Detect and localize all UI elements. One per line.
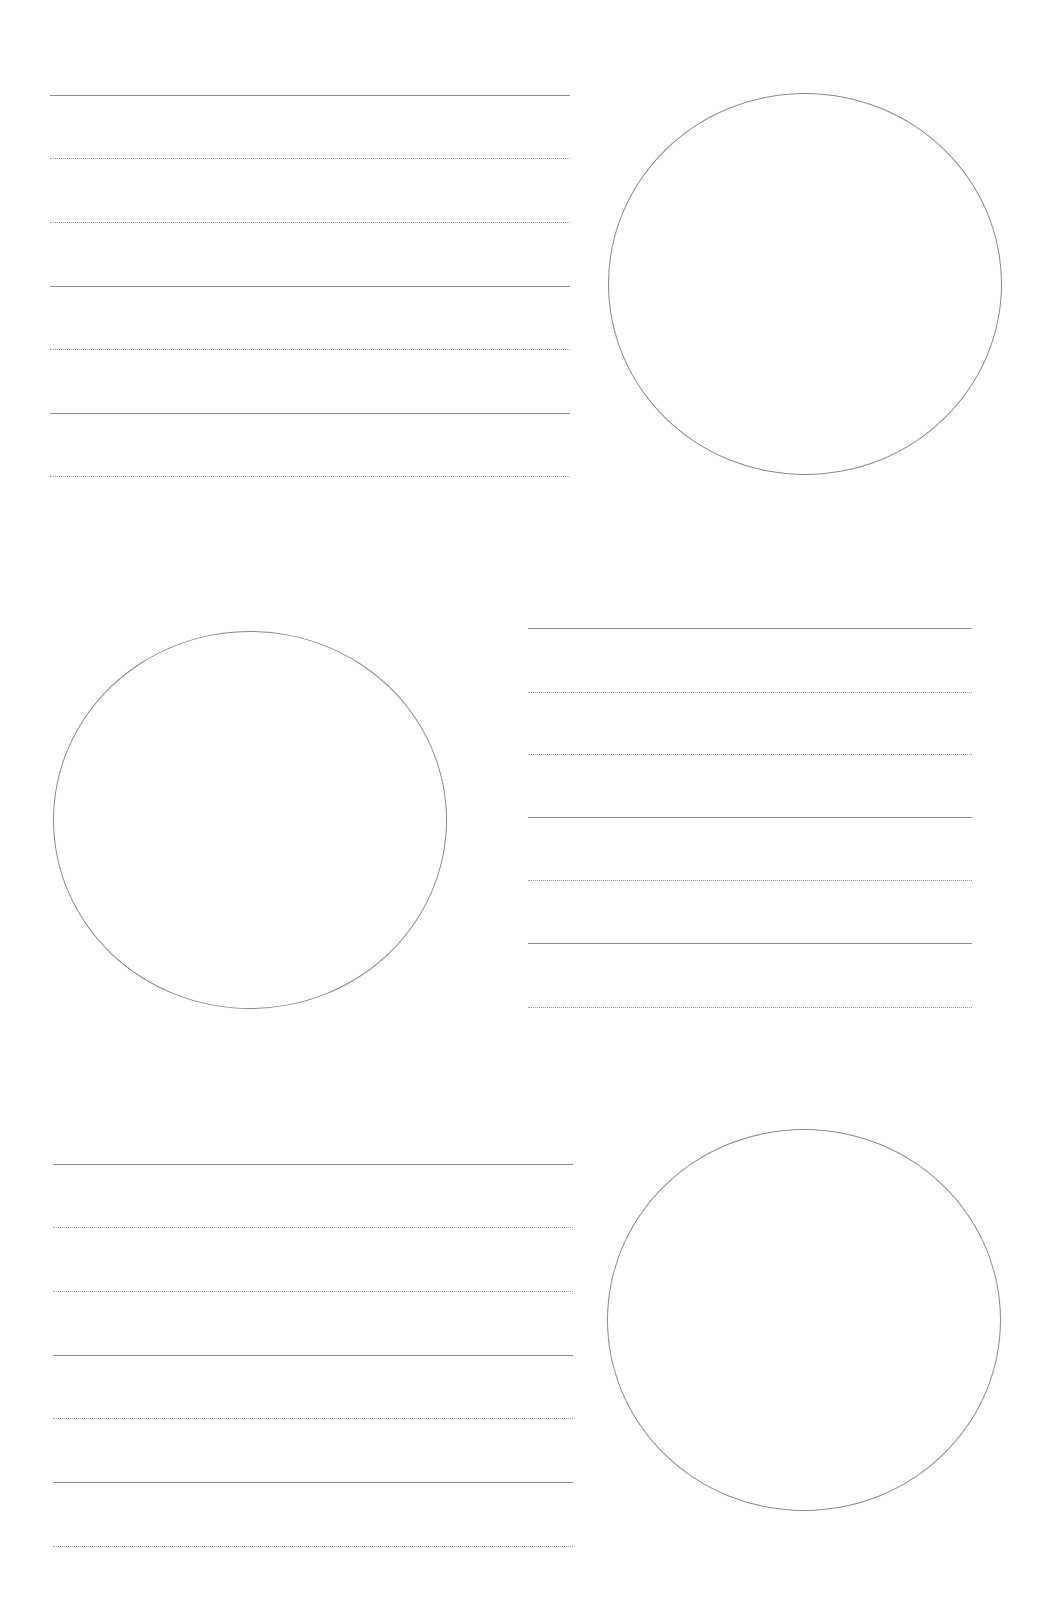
solid-writing-line <box>528 817 972 818</box>
drawing-circle <box>607 1129 1001 1511</box>
dotted-writing-line <box>528 1007 972 1008</box>
solid-writing-line <box>53 1164 573 1165</box>
dotted-writing-line <box>50 349 570 350</box>
solid-writing-line <box>528 943 972 944</box>
solid-writing-line <box>50 95 570 96</box>
dotted-writing-line <box>53 1546 573 1547</box>
dotted-writing-line <box>53 1227 573 1228</box>
solid-writing-line <box>53 1482 573 1483</box>
solid-writing-line <box>50 286 570 287</box>
dotted-writing-line <box>50 158 570 159</box>
solid-writing-line <box>528 628 972 629</box>
dotted-writing-line <box>53 1418 573 1419</box>
dotted-writing-line <box>528 692 972 693</box>
dotted-writing-line <box>50 222 570 223</box>
worksheet-page <box>0 0 1050 1602</box>
drawing-circle <box>608 93 1002 475</box>
dotted-writing-line <box>528 880 972 881</box>
drawing-circle <box>53 631 447 1009</box>
dotted-writing-line <box>53 1291 573 1292</box>
solid-writing-line <box>53 1355 573 1356</box>
dotted-writing-line <box>50 476 570 477</box>
dotted-writing-line <box>528 754 972 755</box>
solid-writing-line <box>50 413 570 414</box>
